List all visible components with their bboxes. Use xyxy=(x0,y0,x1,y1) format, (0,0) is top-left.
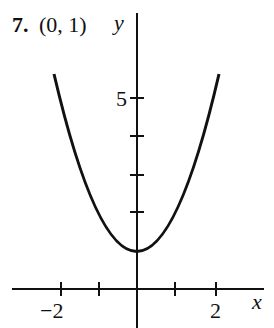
plot-area xyxy=(0,0,274,328)
